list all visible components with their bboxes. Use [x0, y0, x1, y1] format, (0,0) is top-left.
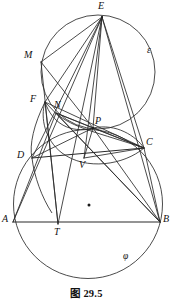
- circle-epsilon: [41, 15, 155, 129]
- point-label-B: B: [163, 214, 169, 224]
- geometry-figure: E M F N P C D V A B T ε φ 图 29.5: [0, 0, 173, 301]
- point-label-F: F: [30, 94, 36, 104]
- seg-E-F: [45, 17, 102, 102]
- seg-E-D: [32, 17, 102, 158]
- point-label-M: M: [24, 50, 32, 60]
- point-label-T: T: [54, 227, 60, 237]
- dot-E: [101, 16, 103, 18]
- seg-P-V: [84, 128, 93, 158]
- dot-center: [88, 204, 91, 207]
- figure-caption: 图 29.5: [0, 285, 173, 300]
- point-label-C: C: [146, 137, 153, 147]
- dot-P: [92, 127, 94, 129]
- point-label-D: D: [17, 150, 24, 160]
- seg-E-M: [41, 17, 102, 62]
- point-label-V: V: [79, 160, 85, 170]
- curve-label-phi: φ: [123, 252, 128, 262]
- point-label-A: A: [2, 214, 8, 224]
- point-label-N: N: [54, 100, 61, 110]
- point-label-P: P: [95, 116, 101, 126]
- segments-group: [13, 17, 160, 224]
- point-label-E: E: [98, 1, 104, 11]
- curve-label-epsilon: ε: [147, 46, 151, 56]
